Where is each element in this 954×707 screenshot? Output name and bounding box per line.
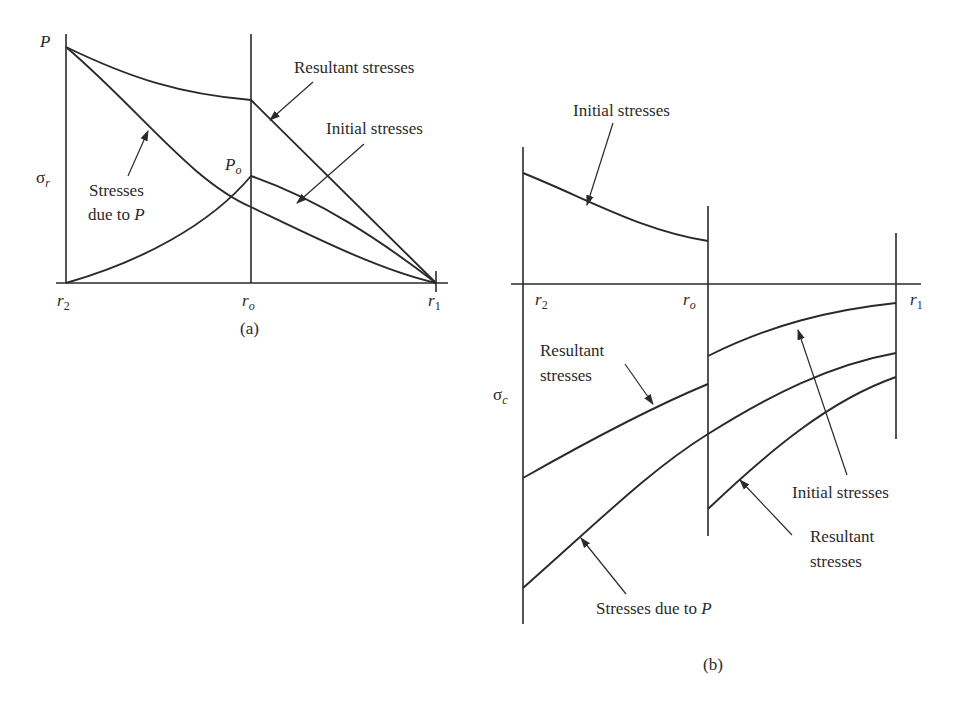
panel-a-tick-r2: r2	[57, 291, 70, 313]
panel-b-due-to-p-arrow	[581, 538, 626, 594]
panel-a-y-axis-label: σr	[36, 168, 50, 190]
panel-b-resultant-right-arrow	[740, 480, 792, 535]
panel-b: Initial stresses Resultant stresses σc I…	[493, 101, 923, 674]
panel-b-initial-top-arrow	[587, 123, 613, 205]
panel-a-due-to-p-label-1: Stresses	[89, 181, 144, 200]
panel-b-initial-right-curve	[708, 303, 896, 356]
panel-b-initial-right-label: Initial stresses	[792, 483, 889, 502]
panel-a-initial-arrow	[297, 144, 364, 203]
panel-a-top-label: P	[39, 32, 50, 51]
panel-a: P σr Po Resultant stresses Initial stres…	[36, 32, 448, 338]
panel-b-tick-r2: r2	[535, 290, 548, 312]
panel-a-tick-ro: ro	[242, 291, 255, 313]
panel-b-due-to-p-label: Stresses due to P	[596, 599, 712, 618]
panel-a-peak-label: Po	[224, 155, 241, 177]
panel-b-resultant-left-label-2: stresses	[540, 366, 592, 385]
panel-b-tick-ro: ro	[683, 290, 696, 312]
stress-distribution-figure: P σr Po Resultant stresses Initial stres…	[0, 0, 954, 707]
panel-b-resultant-right-label-2: stresses	[810, 552, 862, 571]
panel-a-resultant-label: Resultant stresses	[294, 58, 414, 77]
panel-b-tick-r1: r1	[910, 290, 923, 312]
panel-b-initial-top-curve	[523, 173, 708, 241]
panel-a-due-to-p-label-2: due to P	[88, 205, 145, 224]
panel-a-tick-r1: r1	[428, 291, 441, 313]
panel-b-y-axis-label: σc	[493, 385, 508, 407]
panel-b-resultant-left-arrow	[625, 364, 653, 404]
panel-b-caption: (b)	[703, 655, 723, 674]
panel-b-resultant-right-label-1: Resultant	[810, 527, 874, 546]
panel-a-resultant-arrow	[270, 82, 313, 120]
panel-b-resultant-left-curve	[523, 384, 708, 478]
panel-a-initial-label: Initial stresses	[326, 119, 423, 138]
panel-b-initial-top-label: Initial stresses	[573, 101, 670, 120]
panel-a-caption: (a)	[240, 319, 259, 338]
panel-a-due-to-p-arrow	[128, 131, 148, 176]
panel-b-resultant-left-label-1: Resultant	[540, 341, 604, 360]
